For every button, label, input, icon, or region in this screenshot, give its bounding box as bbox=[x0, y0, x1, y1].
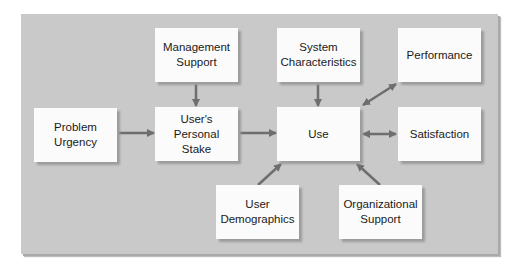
node-satisfaction: Satisfaction bbox=[398, 107, 481, 161]
node-performance: Performance bbox=[398, 28, 481, 82]
node-system-characteristics: System Characteristics bbox=[277, 28, 360, 82]
node-user-demographics: User Demographics bbox=[216, 185, 299, 239]
node-problem-urgency: Problem Urgency bbox=[34, 108, 117, 162]
node-organizational-support: Organizational Support bbox=[339, 185, 422, 239]
node-use: Use bbox=[277, 107, 360, 161]
node-management-support: Management Support bbox=[155, 28, 238, 82]
node-users-personal-stake: User's Personal Stake bbox=[155, 107, 238, 161]
